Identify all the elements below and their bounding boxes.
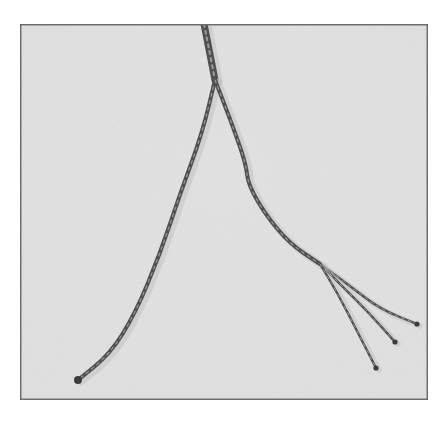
- frayed-end: [392, 339, 397, 344]
- frayed-end: [414, 321, 419, 326]
- twine-photo: [20, 24, 428, 400]
- twine-illustration: [20, 24, 428, 400]
- frayed-end: [373, 365, 378, 370]
- frayed-end: [74, 376, 82, 384]
